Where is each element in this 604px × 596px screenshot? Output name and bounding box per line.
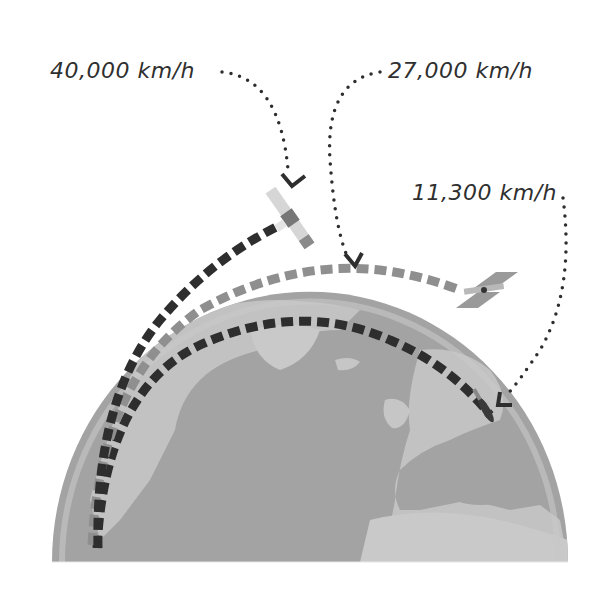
arrowhead-icon	[282, 174, 305, 186]
satellite-icon	[257, 186, 316, 255]
label-suborbital-speed: 11,300 km/h	[412, 180, 557, 205]
pointer-suborbital	[507, 198, 566, 395]
label-leo-speed: 27,000 km/h	[388, 58, 533, 83]
pointer-leo	[330, 72, 380, 258]
satellite-icon	[456, 272, 518, 308]
orbit-diagram	[0, 0, 604, 596]
label-geo-speed: 40,000 km/h	[50, 58, 195, 83]
pointer-geo	[222, 72, 288, 170]
earth-globe	[52, 292, 568, 562]
